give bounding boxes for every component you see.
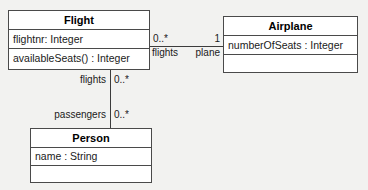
association-role-flight-person-target: passengers [38,109,106,121]
class-box-airplane[interactable]: Airplane numberOfSeats : Integer [223,16,358,73]
association-role-flight-person-source: flights [60,74,106,86]
class-box-flight[interactable]: Flight flightnr: Integer availableSeats(… [8,10,150,70]
uml-class-diagram: Flight flightnr: Integer availableSeats(… [0,0,368,190]
class-attribute-airplane-numberofseats: numberOfSeats : Integer [224,36,357,55]
class-operations-compartment-airplane [224,55,357,72]
association-multiplicity-airplane-end: 1 [186,33,220,45]
association-role-airplane-end: plane [184,47,220,59]
class-name-flight: Flight [9,11,149,30]
association-role-flight-end: flights [152,47,178,59]
class-operation-flight-availableseats: availableSeats() : Integer [9,49,149,69]
association-line-flight-person[interactable] [110,70,111,128]
class-name-person: Person [31,129,151,148]
association-multiplicity-flight-person-source: 0..* [114,74,129,86]
class-box-person[interactable]: Person name : String [30,128,152,183]
class-attribute-flight-flightnr: flightnr: Integer [9,30,149,49]
association-multiplicity-flight-end: 0..* [153,33,168,45]
class-operations-compartment-person [31,166,151,182]
association-multiplicity-flight-person-target: 0..* [114,109,129,121]
class-attribute-person-name: name : String [31,148,151,166]
class-name-airplane: Airplane [224,17,357,36]
